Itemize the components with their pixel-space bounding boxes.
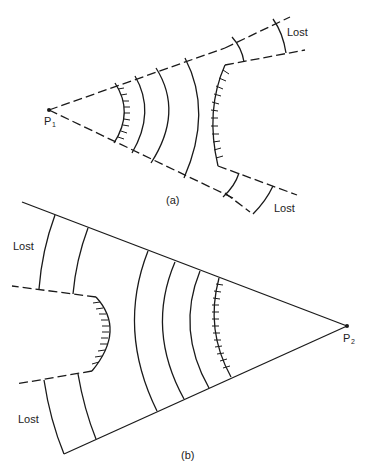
panel-b: P 2 Lost Lost (b) <box>12 202 355 461</box>
lost-arc-b-upper-1 <box>39 215 55 289</box>
lost-label-a-upper: Lost <box>287 26 308 38</box>
lost-arc-upper-1 <box>232 37 244 62</box>
lost-arc-b-lower-1 <box>44 380 64 454</box>
wavefront-a-3 <box>184 58 199 178</box>
cone-lower-boundary <box>49 110 233 198</box>
reflector-upper-edge <box>225 50 305 65</box>
obstacle-lower-edge <box>16 371 92 384</box>
diagram-canvas: P 1 Lost Lost (a) <box>0 0 368 473</box>
panel-b-caption: (b) <box>181 449 194 461</box>
wavefront-a-1 <box>132 76 145 153</box>
cone-lower-outer <box>225 193 250 212</box>
lost-arc-b-lower-2 <box>78 374 96 439</box>
hatched-wavefront-b <box>214 278 231 377</box>
panel-a-caption: (a) <box>166 194 179 206</box>
wavefront-a-2 <box>151 68 169 163</box>
lost-label-a-lower: Lost <box>274 202 295 214</box>
hatched-wavefront-a <box>114 83 124 143</box>
source-subscript-p1: 1 <box>52 121 56 128</box>
cone-lower-boundary-b <box>64 326 347 454</box>
cone-upper-boundary-b <box>22 202 347 326</box>
lost-arc-lower-2 <box>253 186 273 214</box>
lost-label-b-lower: Lost <box>18 413 39 425</box>
panel-a: P 1 Lost Lost (a) <box>44 17 308 214</box>
wavefront-b-2 <box>162 262 184 399</box>
source-label-p2: P <box>343 332 350 344</box>
source-subscript-p2: 2 <box>351 338 355 345</box>
lost-label-b-upper: Lost <box>13 240 34 252</box>
lost-arc-b-upper-2 <box>73 228 88 294</box>
wavefront-b-3 <box>134 251 157 411</box>
wavefront-b-1 <box>190 271 209 388</box>
obstacle-upper-edge <box>12 286 96 297</box>
source-label-p1: P <box>44 115 51 127</box>
